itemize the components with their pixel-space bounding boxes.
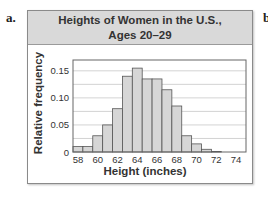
x-tick-label: 72 [211,154,222,165]
y-tick-label: 0 [64,147,69,158]
bar-62 [113,109,123,152]
bar-68 [172,106,182,152]
bar-67 [162,90,172,152]
bar-69 [182,136,192,152]
x-axis-label: Height (inches) [103,165,186,177]
x-tick-label: 58 [73,154,84,165]
bar-70 [192,144,202,152]
x-tick-label: 60 [92,154,103,165]
bar-59 [83,147,93,152]
bar-66 [152,79,162,152]
bar-64 [132,68,142,152]
y-tick-label: 0.10 [51,92,70,103]
y-tick-label: 0.05 [51,119,70,130]
bar-layer [73,68,221,152]
bar-60 [93,136,103,152]
y-tick-label: 0.15 [51,65,70,76]
x-tick-label: 64 [132,154,143,165]
y-tick-layer: 00.050.100.15 [51,65,70,157]
x-tick-label: 66 [152,154,163,165]
histogram: 00.050.100.15 586062646668707274 Height … [0,0,268,200]
bar-58 [73,147,83,152]
x-tick-label: 62 [112,154,123,165]
x-tick-label: 68 [172,154,183,165]
y-axis-label: Relative frequency [32,51,44,154]
bar-63 [122,76,132,152]
x-tick-label: 74 [231,154,242,165]
bar-65 [142,79,152,152]
bar-61 [103,125,113,152]
x-tick-layer: 586062646668707274 [73,154,242,165]
x-tick-label: 70 [191,154,202,165]
